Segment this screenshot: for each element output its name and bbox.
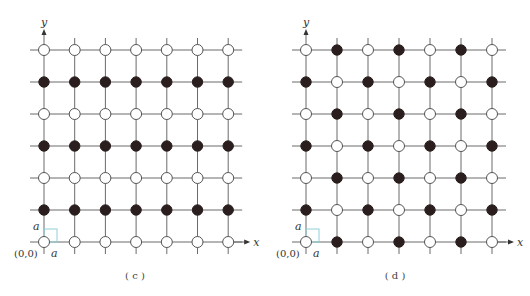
- origin-label: (0,0): [14, 248, 38, 259]
- black-atom: [39, 205, 49, 215]
- white-atom: [487, 237, 498, 248]
- white-atom: [100, 45, 111, 56]
- white-atom: [394, 205, 405, 216]
- x-axis-label: x: [253, 236, 260, 249]
- black-atom: [131, 141, 141, 151]
- white-atom: [223, 173, 234, 184]
- black-atom: [394, 173, 404, 183]
- white-atom: [332, 77, 343, 88]
- black-atom: [332, 45, 342, 55]
- white-atom: [223, 109, 234, 120]
- white-atom: [363, 45, 374, 56]
- white-atom: [161, 237, 172, 248]
- black-atom: [100, 205, 110, 215]
- black-atom: [162, 205, 172, 215]
- black-atom: [131, 77, 141, 87]
- white-atom: [131, 45, 142, 56]
- unit-length-x-label: a: [313, 247, 320, 260]
- black-atom: [332, 173, 342, 183]
- white-atom: [223, 237, 234, 248]
- white-atom: [223, 45, 234, 56]
- panel-c-row-alternating-lattice: xyaa(0,0)( c ): [14, 16, 260, 281]
- black-atom: [363, 141, 373, 151]
- y-axis: y: [40, 16, 48, 38]
- white-atom: [192, 237, 203, 248]
- black-atom: [425, 205, 435, 215]
- white-atom: [425, 237, 436, 248]
- white-atom: [363, 109, 374, 120]
- white-atom: [332, 205, 343, 216]
- panel-caption: ( c ): [125, 270, 145, 281]
- x-axis-arrow-icon: [244, 240, 250, 245]
- black-atom: [131, 205, 141, 215]
- black-atom: [223, 141, 233, 151]
- black-atom: [100, 77, 110, 87]
- black-atom: [223, 77, 233, 87]
- black-atom: [487, 205, 497, 215]
- black-atom: [192, 205, 202, 215]
- white-atom: [100, 173, 111, 184]
- white-atom: [131, 173, 142, 184]
- panel-d-checkerboard-lattice: xyaa(0,0)( d ): [276, 16, 524, 281]
- white-atom: [69, 173, 80, 184]
- black-atom: [162, 77, 172, 87]
- white-atom: [39, 109, 50, 120]
- black-atom: [192, 77, 202, 87]
- white-atom: [425, 109, 436, 120]
- y-axis-arrow-icon: [304, 29, 309, 35]
- white-atom: [425, 173, 436, 184]
- black-atom: [456, 173, 466, 183]
- black-atom: [394, 109, 404, 119]
- white-atom: [69, 237, 80, 248]
- black-atom: [363, 205, 373, 215]
- white-atom: [487, 109, 498, 120]
- unit-cell-marker: aa(0,0): [276, 220, 320, 260]
- white-atom: [192, 45, 203, 56]
- x-axis-label: x: [517, 236, 524, 249]
- white-atom: [161, 109, 172, 120]
- black-atom: [70, 77, 80, 87]
- black-atom: [425, 77, 435, 87]
- white-atom: [192, 109, 203, 120]
- white-atom: [100, 109, 111, 120]
- white-atom: [69, 45, 80, 56]
- white-atom: [192, 173, 203, 184]
- y-axis-label: y: [302, 16, 310, 29]
- black-atom: [301, 77, 311, 87]
- panel-caption: ( d ): [385, 270, 406, 281]
- black-atom: [39, 77, 49, 87]
- white-atom: [39, 237, 50, 248]
- unit-length-x-label: a: [51, 247, 58, 260]
- origin-label: (0,0): [276, 248, 300, 259]
- white-atom: [456, 77, 467, 88]
- white-atom: [332, 141, 343, 152]
- black-atom: [39, 141, 49, 151]
- unit-length-y-label: a: [33, 220, 40, 233]
- white-atom: [487, 45, 498, 56]
- x-axis-arrow-icon: [508, 240, 514, 245]
- white-atom: [301, 109, 312, 120]
- y-axis-arrow-icon: [42, 29, 47, 35]
- white-atom: [301, 45, 312, 56]
- white-atom: [39, 173, 50, 184]
- y-axis-label: y: [40, 16, 48, 29]
- black-atom: [192, 141, 202, 151]
- white-atom: [161, 173, 172, 184]
- white-atom: [301, 237, 312, 248]
- black-atom: [394, 45, 404, 55]
- white-atom: [363, 173, 374, 184]
- black-atom: [487, 77, 497, 87]
- white-atom: [69, 109, 80, 120]
- black-atom: [456, 237, 466, 247]
- black-atom: [332, 237, 342, 247]
- white-atom: [39, 45, 50, 56]
- white-atom: [100, 237, 111, 248]
- white-atom: [301, 173, 312, 184]
- black-atom: [100, 141, 110, 151]
- black-atom: [456, 45, 466, 55]
- white-atom: [456, 205, 467, 216]
- black-atom: [70, 141, 80, 151]
- black-atom: [162, 141, 172, 151]
- white-atom: [487, 173, 498, 184]
- black-atom: [363, 77, 373, 87]
